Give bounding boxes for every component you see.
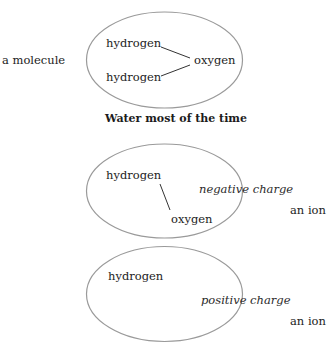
atom-hydrogen: hydrogen [108,271,163,283]
bond-line-hydrogen2-oxygen [161,65,190,76]
atom-oxygen: oxygen [194,55,235,67]
molecule-label: a molecule [2,55,65,67]
water-caption: Water most of the time [105,113,247,124]
ion-label: an ion [290,316,326,328]
water-ions-diagram: a molecule hydrogen hydrogen oxygen Wate… [0,0,335,343]
atom-hydrogen: hydrogen [106,170,161,182]
ion-label: an ion [290,205,326,217]
atom-hydrogen-2: hydrogen [106,72,161,84]
negative-charge-label: negative charge [199,184,293,196]
atom-oxygen: oxygen [171,214,212,226]
bond-line-hydrogen-oxygen [160,184,170,210]
positive-charge-label: positive charge [201,295,291,307]
bond-line-hydrogen1-oxygen [161,47,190,58]
atom-hydrogen-1: hydrogen [106,38,161,50]
diagram-shapes [0,0,335,343]
